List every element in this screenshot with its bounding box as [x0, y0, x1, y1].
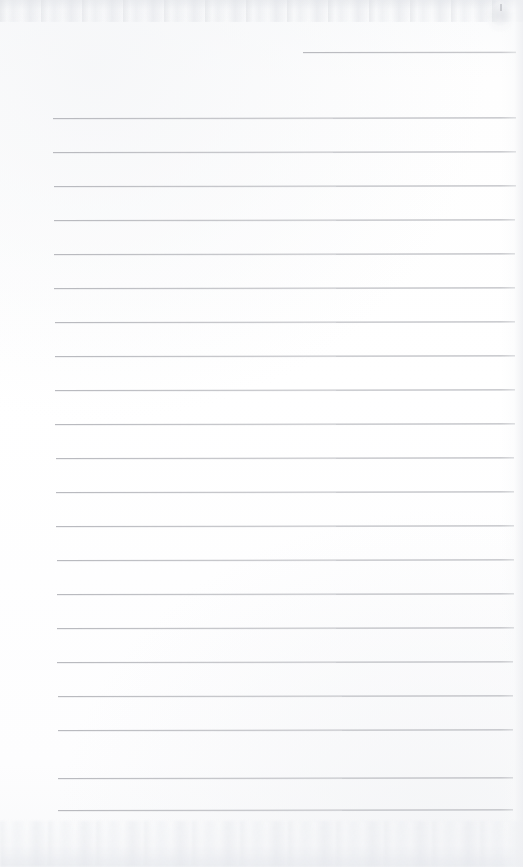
ruled-line — [54, 287, 515, 289]
ruled-line — [53, 117, 516, 119]
ruled-line — [57, 627, 514, 629]
ruled-line — [58, 729, 513, 731]
ruled-line — [53, 151, 516, 153]
ruled-lines-layer — [0, 0, 523, 867]
ruled-line — [58, 695, 513, 697]
ruled-line — [54, 219, 515, 221]
ruled-line — [55, 389, 515, 391]
ruled-line — [54, 185, 516, 187]
ruled-line — [57, 559, 514, 561]
ruled-line — [57, 661, 513, 663]
ruled-line — [55, 355, 515, 357]
ruled-line — [54, 253, 515, 255]
ruled-line — [56, 491, 514, 493]
ruled-line — [56, 457, 514, 459]
ruled-line — [58, 777, 513, 779]
ruled-line — [57, 593, 514, 595]
ruled-line-partial — [303, 52, 516, 53]
ruled-line — [55, 423, 515, 425]
ruled-line — [56, 525, 514, 527]
ruled-line — [55, 321, 515, 323]
scanned-page — [0, 0, 523, 867]
ruled-line — [58, 809, 513, 811]
